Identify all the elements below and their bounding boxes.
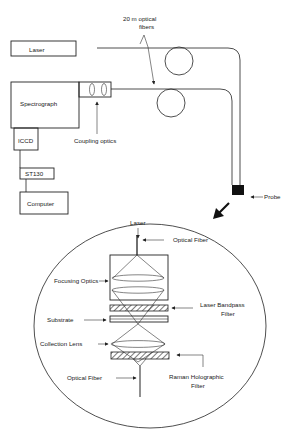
probe-detail-arrow-shaft bbox=[219, 203, 229, 213]
iccd-box: ICCD bbox=[14, 128, 38, 150]
fiber-coil-upper bbox=[165, 47, 193, 75]
detail-laser-label: Laser bbox=[130, 219, 145, 226]
spectrograph-box: Spectrograph bbox=[11, 82, 79, 128]
bottom-optical-fiber-label: Optical Fiber bbox=[67, 374, 102, 381]
iccd-label: ICCD bbox=[18, 137, 34, 144]
laser-box: Laser bbox=[11, 41, 76, 56]
st130-box: ST130 bbox=[20, 168, 54, 179]
raman-probe-diagram: Laser 20 m optical fibers Spectrograph C… bbox=[0, 0, 300, 432]
raman-filter-label-line1: Raman Holographic bbox=[169, 373, 224, 380]
fibers-pointer-upper bbox=[140, 35, 148, 47]
probe-label: Probe bbox=[264, 193, 281, 200]
laser-bandpass-label-line2: Filter bbox=[221, 310, 235, 317]
fiber-coil-lower bbox=[157, 89, 185, 117]
raman-filter-pointer bbox=[177, 355, 203, 367]
collection-lens bbox=[111, 341, 165, 348]
focusing-optics-label: Focusing Optics bbox=[54, 277, 98, 284]
st130-label: ST130 bbox=[25, 170, 44, 177]
fibers-pointer-lower bbox=[148, 47, 154, 84]
coupling-optics bbox=[79, 82, 111, 97]
laser-label: Laser bbox=[29, 46, 44, 53]
collection-fiber bbox=[111, 89, 232, 185]
collection-rays bbox=[112, 324, 165, 344]
substrate-label: Substrate bbox=[47, 316, 74, 323]
computer-box: Computer bbox=[20, 192, 68, 214]
coupling-optics-label: Coupling optics bbox=[74, 137, 116, 144]
focusing-lens-1 bbox=[112, 275, 164, 281]
collection-lens-label: Collection Lens bbox=[40, 340, 82, 347]
focusing-lens-2 bbox=[112, 287, 164, 293]
fibers-label-line2: fibers bbox=[139, 23, 154, 30]
laser-bandpass-label-line1: Laser Bandpass bbox=[200, 301, 245, 308]
probe-head bbox=[232, 185, 244, 195]
computer-label: Computer bbox=[27, 200, 54, 207]
laser-bandpass-filter bbox=[110, 305, 168, 311]
top-optical-fiber-label: Optical Fiber bbox=[173, 236, 208, 243]
raman-filter-label-line2: Filter bbox=[191, 382, 205, 389]
fibers-label-line1: 20 m optical bbox=[123, 15, 156, 22]
raman-holographic-filter bbox=[111, 352, 169, 359]
spectrograph-label: Spectrograph bbox=[20, 100, 58, 107]
